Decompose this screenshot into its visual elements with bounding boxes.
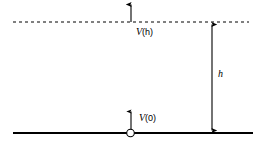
origin-circle-marker — [127, 129, 135, 137]
physics-potential-diagram: V(h) V(0) h — [0, 0, 265, 144]
potential-at-height-label: V(h) — [136, 27, 153, 37]
diagram-canvas — [0, 0, 265, 144]
height-label: h — [218, 69, 223, 79]
potential-argument-lower: (0) — [145, 113, 156, 123]
potential-argument-upper: (h) — [142, 27, 153, 37]
potential-at-ground-label: V(0) — [139, 113, 156, 123]
